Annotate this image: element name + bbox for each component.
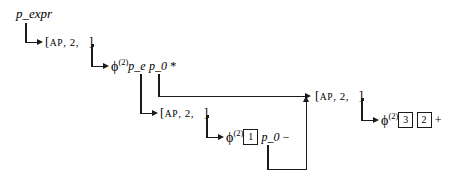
closure-sub: ϕ(2)1 p_0 − [226,129,290,146]
closure-mul: ϕ(2)p_e p_0 * [111,58,176,73]
ap-cell-2-tag: AP [165,109,178,119]
closure-add-phi-icon: ϕ [381,113,388,128]
closure-mul-superscript: (2) [118,57,128,67]
ap-cell-2-comma-2: , [191,107,194,119]
edge-ap1-arrowhead-icon [103,63,109,69]
closure-add: ϕ(2)3 2 + [381,112,442,129]
edge-root-vertical [25,23,27,43]
closure-mul-operator: * [170,59,176,73]
ap-cell-3-tag: AP [320,92,333,102]
edge-p0-vertical [158,74,160,97]
closure-mul-phi-icon: ϕ [111,59,118,74]
edge-ap1-vertical [91,45,93,67]
ap-cell-1: [AP, 2, ] [45,35,94,49]
ap-cell-3-comma-2: , [346,90,349,102]
closure-sub-operator: − [283,130,290,144]
closure-mul-arg-0: p_e [128,59,145,73]
edge-p0-horizontal [158,96,306,98]
closure-sub-arg-0: p_0 [262,130,280,144]
edge-backref-vertical-down [267,145,269,170]
ap-cell-2-comma-1: , [178,107,181,119]
graph-reduction-diagram: p_expr [AP, 2, ] ϕ(2)p_e p_0 * [AP, 2, ]… [0,0,462,184]
ap-cell-2: [AP, 2, ] [160,106,209,120]
ap-cell-1-tag: AP [50,38,63,48]
closure-add-boxed-1: 2 [417,112,432,128]
edge-backref-arrowhead-icon [303,96,309,102]
ap-cell-1-comma-1: , [63,36,66,48]
root-label: p_expr [16,7,52,20]
closure-sub-phi-icon: ϕ [226,130,233,145]
edge-pe-arrowhead-icon [152,110,158,116]
closure-mul-arg-1: p_0 [149,59,167,73]
edge-ap3-vertical [361,99,363,121]
edge-root-arrowhead-icon [37,39,43,45]
ap-cell-3: [AP, 2, ] [315,89,364,103]
closure-add-superscript: (2) [388,111,398,121]
ap-cell-3-comma-1: , [333,90,336,102]
edge-ap2-arrowhead-icon [218,134,224,140]
closure-sub-superscript: (2) [233,128,243,138]
root-label-text: p_expr [16,6,52,21]
edge-pe-vertical [140,74,142,114]
ap-cell-1-comma-2: , [76,36,79,48]
edge-backref-vertical-up [306,101,308,169]
closure-add-operator: + [435,113,442,127]
edge-ap3-arrowhead-icon [373,117,379,123]
closure-sub-boxed-0: 1 [243,129,258,145]
closure-add-boxed-0: 3 [398,112,413,128]
edge-ap2-vertical [206,116,208,138]
edge-backref-horizontal [267,169,307,171]
